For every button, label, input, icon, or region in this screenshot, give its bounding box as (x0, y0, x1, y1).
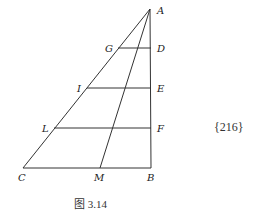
point-label-C: C (18, 172, 26, 183)
point-label-F: F (156, 123, 165, 134)
point-label-B: B (146, 172, 154, 183)
point-label-A: A (156, 5, 164, 16)
side-note: {216} (214, 120, 244, 135)
figure-canvas: A G D I E L F C M B {216} 图 3.14 (0, 0, 267, 223)
point-label-D: D (156, 43, 165, 54)
point-label-L: L (41, 123, 49, 134)
triangle-diagram: A G D I E L F C M B (0, 0, 267, 223)
point-label-G: G (105, 43, 113, 54)
point-label-E: E (156, 83, 165, 94)
figure-caption: 图 3.14 (74, 195, 107, 211)
point-label-M: M (93, 172, 105, 183)
point-label-I: I (76, 83, 82, 94)
